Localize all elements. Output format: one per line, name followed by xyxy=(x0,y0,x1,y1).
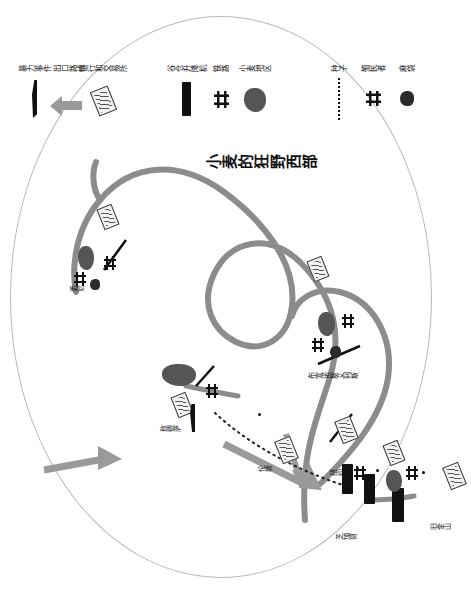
place-label-odessa: 敖德萨 xyxy=(160,425,182,432)
legend-item-railroad: 铁路 xyxy=(204,63,238,122)
place-label-san-francisco: 旧金山 xyxy=(430,523,452,530)
place-odessa: 敖德萨 xyxy=(160,322,250,432)
bank-exchange-icon xyxy=(442,462,467,491)
settler-icon xyxy=(358,76,388,122)
place-sydney: 悉尼 xyxy=(70,192,140,292)
legend-label: 铁路 xyxy=(213,63,229,74)
legend-item-bank-exchange: 银行和交易所 xyxy=(86,63,120,122)
legend-label: 小麦地区 xyxy=(239,63,271,74)
legend-label: 殖民者 xyxy=(361,63,385,74)
bank-exchange-icon xyxy=(96,204,119,230)
legend-column-left: 种子 殖民者 麻袋 xyxy=(322,63,424,122)
grain-elevator-icon xyxy=(172,76,202,122)
bank-exchange-icon xyxy=(170,392,193,418)
legend-column-right: 暴力事件 出口路线 银行和交易所 xyxy=(18,63,120,122)
legend-item-seeds: 种子 xyxy=(322,63,356,122)
place-london: 伦敦 xyxy=(258,382,318,472)
legend-item-violence: 暴力事件 xyxy=(18,63,52,122)
legend-label: 银行和交易所 xyxy=(79,63,127,74)
legend-column-middle: 谷仓升降机 铁路 小麦地区 xyxy=(170,63,272,122)
legend-label: 麻袋 xyxy=(399,63,415,74)
legend-label: 暴力事件 xyxy=(19,63,51,74)
bank-exchange-icon xyxy=(88,76,118,122)
grain-elevator-icon xyxy=(342,464,353,494)
bank-exchange-icon xyxy=(306,256,329,282)
legend-label: 种子 xyxy=(331,63,347,74)
place-label-chicago: 芝加哥 xyxy=(336,533,358,540)
page-title: 小麦的狂野西部 xyxy=(206,151,318,172)
bank-exchange-icon xyxy=(274,436,299,465)
legend-item-settlers: 殖民者 xyxy=(356,63,390,122)
railroad-icon xyxy=(206,76,236,122)
rifle-icon xyxy=(20,76,50,122)
legend-item-sack: 麻袋 xyxy=(390,63,424,122)
place-buenos-aires: 布宜诺斯艾利斯 xyxy=(308,250,394,380)
wheat-region-icon xyxy=(240,76,270,122)
dotted-line-icon xyxy=(324,76,354,122)
grain-elevator-icon xyxy=(392,488,404,522)
place-san-francisco: 旧金山 xyxy=(430,440,471,530)
legend-item-wheat-region: 小麦地区 xyxy=(238,63,272,122)
place-label-buenos-aires: 布宜诺斯艾利斯 xyxy=(308,372,358,380)
sack-icon xyxy=(392,76,422,122)
legend-item-grain-elevator: 谷仓升降机 xyxy=(170,63,204,122)
legend-label: 谷仓升降机 xyxy=(167,63,207,74)
arrow-route-icon xyxy=(54,76,84,122)
rifle-icon xyxy=(190,404,195,432)
place-label-london: 伦敦 xyxy=(258,465,272,472)
bank-exchange-icon xyxy=(382,440,405,466)
